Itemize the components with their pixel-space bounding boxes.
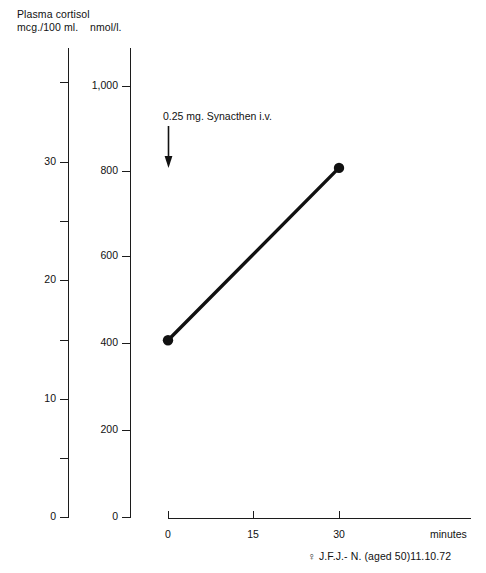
nmol-tick (122, 256, 131, 257)
cortisol-line (168, 168, 339, 340)
left-axis-title: Plasma cortisol mcg./100 ml. (17, 8, 90, 34)
mcg-axis-line (68, 48, 69, 518)
minutes-tick-label: 0 (148, 528, 188, 540)
nmol-tick-label: 1,000 (70, 79, 118, 91)
mcg-tick-label: 30 (10, 155, 56, 167)
minutes-axis-line (168, 518, 471, 519)
mcg-tick (60, 517, 69, 518)
nmol-tick (122, 86, 131, 87)
down-arrow-icon (162, 126, 176, 170)
mcg-tick (60, 162, 69, 163)
plasma-cortisol-chart: Plasma cortisol mcg./100 ml. nmol/l. 302… (0, 0, 486, 573)
mcg-tick-label: 0 (10, 510, 56, 522)
nmol-tick (122, 517, 131, 518)
right-axis-title: nmol/l. (90, 21, 122, 34)
nmol-tick-label: 600 (70, 249, 118, 261)
nmol-tick-label: 400 (70, 336, 118, 348)
nmol-tick-label: 800 (70, 164, 118, 176)
nmol-tick (122, 343, 131, 344)
mcg-tick-label: 20 (10, 273, 56, 285)
data-point-marker (334, 163, 344, 173)
patient-caption: ♀ J.F.J.- N. (aged 50)11.10.72 (308, 550, 451, 562)
nmol-tick-label: 0 (70, 510, 118, 522)
mcg-tick-label: 10 (10, 392, 56, 404)
nmol-axis-line (130, 48, 131, 518)
nmol-tick (122, 430, 131, 431)
mcg-tick (60, 399, 69, 400)
minutes-tick (339, 511, 340, 519)
mcg-tick (60, 221, 69, 222)
mcg-tick (60, 458, 69, 459)
minutes-tick-label: 15 (233, 528, 273, 540)
mcg-tick (60, 280, 69, 281)
mcg-tick (60, 340, 69, 341)
minutes-tick (168, 511, 169, 519)
synacthen-annotation: 0.25 mg. Synacthen i.v. (163, 110, 272, 122)
mcg-tick (60, 82, 69, 83)
minutes-tick-label: 30 (319, 528, 359, 540)
nmol-tick-label: 200 (70, 423, 118, 435)
minutes-axis-label: minutes (430, 528, 467, 540)
nmol-tick (122, 171, 131, 172)
data-point-marker (163, 335, 173, 345)
minutes-tick (253, 511, 254, 519)
